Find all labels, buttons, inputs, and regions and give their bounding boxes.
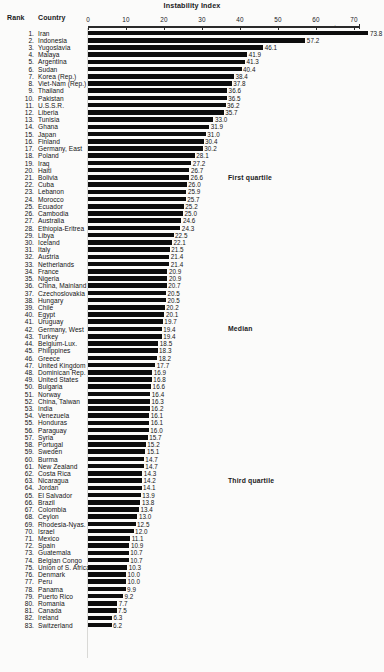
value-bar bbox=[88, 543, 129, 548]
column-header-country: Country bbox=[38, 14, 66, 21]
row-country-label: Poland bbox=[38, 152, 59, 159]
value-bar bbox=[88, 60, 245, 65]
value-bar bbox=[88, 536, 130, 541]
row-rank: 2. bbox=[14, 37, 34, 44]
row-rank: 25. bbox=[14, 203, 34, 210]
row-country-label: Haiti bbox=[38, 167, 51, 174]
value-bar bbox=[88, 204, 184, 209]
bar-row: 76.Denmark10.0 bbox=[0, 571, 384, 578]
row-rank: 65. bbox=[14, 492, 34, 499]
bar-row: 5.Argentina41.3 bbox=[0, 58, 384, 65]
row-rank: 23. bbox=[14, 188, 34, 195]
value-bar bbox=[88, 522, 136, 527]
bar-row: 13.Tunisia33.0 bbox=[0, 116, 384, 123]
value-label: 30.4 bbox=[205, 138, 217, 145]
row-rank: 10. bbox=[14, 95, 34, 102]
value-label: 18.5 bbox=[160, 340, 172, 347]
value-bar bbox=[88, 269, 167, 274]
row-country-label: Guatemala bbox=[38, 549, 71, 556]
row-country-label: Israel bbox=[38, 528, 54, 535]
x-axis-tick-label-50: 50 bbox=[274, 16, 281, 23]
value-label: 16.1 bbox=[151, 412, 163, 419]
value-bar bbox=[88, 421, 149, 426]
bar-row: 51.Norway16.4 bbox=[0, 391, 384, 398]
row-country-label: France bbox=[38, 268, 59, 275]
row-country-label: Ghana bbox=[38, 123, 58, 130]
row-country-label: Nigeria bbox=[38, 275, 59, 282]
value-label: 41.9 bbox=[249, 51, 261, 58]
row-country-label: Italy bbox=[38, 246, 50, 253]
row-country-label: Romania bbox=[38, 600, 65, 607]
value-bar bbox=[88, 529, 134, 534]
value-label: 11.1 bbox=[132, 535, 144, 542]
bar-row: 15.Japan31.0 bbox=[0, 131, 384, 138]
row-country-label: Egypt bbox=[38, 311, 55, 318]
row-rank: 41. bbox=[14, 318, 34, 325]
row-rank: 79. bbox=[14, 593, 34, 600]
value-bar bbox=[88, 449, 145, 454]
row-country-label: Malaya bbox=[38, 51, 60, 58]
row-country-label: Hungary bbox=[38, 297, 63, 304]
bar-row: 12.Liberia35.7 bbox=[0, 109, 384, 116]
value-bar bbox=[88, 182, 187, 187]
bar-row: 74.Belgian Congo10.7 bbox=[0, 557, 384, 564]
value-label: 10.0 bbox=[128, 578, 140, 585]
row-rank: 15. bbox=[14, 131, 34, 138]
value-label: 36.2 bbox=[227, 102, 239, 109]
value-label: 18.2 bbox=[159, 355, 171, 362]
row-rank: 37. bbox=[14, 290, 34, 297]
annotation-median: Median bbox=[228, 325, 253, 332]
row-rank: 3. bbox=[14, 44, 34, 51]
row-country-label: Belgium-Lux. bbox=[38, 340, 77, 347]
row-rank: 9. bbox=[14, 87, 34, 94]
value-bar bbox=[88, 117, 213, 122]
row-rank: 54. bbox=[14, 412, 34, 419]
bar-row: 27.Australia24.6 bbox=[0, 217, 384, 224]
value-bar bbox=[88, 319, 163, 324]
bar-row: 6.Sudan40.4 bbox=[0, 66, 384, 73]
value-label: 16.1 bbox=[151, 419, 163, 426]
value-label: 21.5 bbox=[171, 246, 183, 253]
bar-row: 52.China, Taiwan16.3 bbox=[0, 398, 384, 405]
row-country-label: China, Mainland bbox=[38, 282, 86, 289]
row-country-label: Austria bbox=[38, 253, 59, 260]
value-label: 10.7 bbox=[130, 557, 142, 564]
row-country-label: Germany, West bbox=[38, 326, 84, 333]
row-country-label: United Kingdom bbox=[38, 362, 86, 369]
value-bar bbox=[88, 132, 206, 137]
value-bar bbox=[88, 464, 144, 469]
row-rank: 30. bbox=[14, 239, 34, 246]
row-rank: 78. bbox=[14, 586, 34, 593]
row-rank: 32. bbox=[14, 253, 34, 260]
value-bar bbox=[88, 125, 209, 130]
row-country-label: Union of S. Africa bbox=[38, 564, 90, 571]
value-label: 26.0 bbox=[188, 181, 200, 188]
value-bar bbox=[88, 276, 167, 281]
value-bar bbox=[88, 146, 203, 151]
row-country-label: Morocco bbox=[38, 196, 64, 203]
row-rank: 66. bbox=[14, 499, 34, 506]
row-rank: 8. bbox=[14, 80, 34, 87]
bar-row: 71.Mexico11.1 bbox=[0, 535, 384, 542]
value-bar bbox=[88, 594, 123, 599]
row-country-label: Denmark bbox=[38, 571, 65, 578]
row-country-label: Japan bbox=[38, 131, 56, 138]
row-rank: 22. bbox=[14, 181, 34, 188]
instability-index-bar-chart: Instability Index Rank Country 010203040… bbox=[0, 0, 384, 672]
value-label: 36.5 bbox=[228, 95, 240, 102]
bar-row: 33.Netherlands21.4 bbox=[0, 261, 384, 268]
value-bar bbox=[88, 45, 263, 50]
value-label: 9.9 bbox=[127, 586, 136, 593]
bar-row: 37.Czechoslovakia20.5 bbox=[0, 290, 384, 297]
row-rank: 14. bbox=[14, 123, 34, 130]
value-label: 17.7 bbox=[157, 362, 169, 369]
value-bar bbox=[88, 435, 148, 440]
row-rank: 45. bbox=[14, 347, 34, 354]
value-label: 20.7 bbox=[168, 282, 180, 289]
value-bar bbox=[88, 507, 139, 512]
row-country-label: Lebanon bbox=[38, 188, 64, 195]
value-label: 46.1 bbox=[265, 44, 277, 51]
bar-row: 32.Austria21.4 bbox=[0, 253, 384, 260]
value-bar bbox=[88, 471, 142, 476]
value-label: 25.0 bbox=[185, 210, 197, 217]
